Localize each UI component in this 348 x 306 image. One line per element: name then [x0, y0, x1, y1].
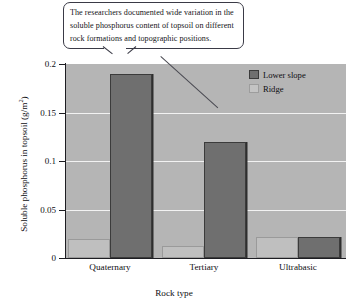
legend-swatch-icon-ridge	[249, 84, 259, 93]
y-tick-0.1	[59, 161, 65, 162]
x-axis-line	[65, 258, 346, 259]
annotation-callout: The researchers documented wide variatio…	[63, 2, 244, 49]
bar-tertiary-ridge	[162, 246, 204, 258]
y-axis-title-exponent: 2	[17, 99, 24, 102]
legend-label-ridge: Ridge	[263, 84, 284, 94]
legend-label-lower-slope: Lower slope	[263, 70, 306, 80]
bar-tertiary-lower-slope	[204, 142, 246, 258]
bar-quaternary-lower-slope	[110, 74, 152, 258]
bar-ultrabasic-ridge	[256, 237, 298, 258]
y-tick-0.2	[59, 64, 65, 65]
y-tick-0.15	[59, 113, 65, 114]
x-tick-label-ultrabasic: Ultrabasic	[258, 262, 338, 272]
y-axis-title-base: Soluble phosphorus in topsoil (g/m	[19, 103, 29, 232]
x-axis-title: Rock type	[0, 288, 348, 298]
gridline-0.15	[66, 113, 346, 114]
legend: Lower slope Ridge	[249, 68, 306, 96]
chart-figure: The researchers documented wide variatio…	[0, 0, 348, 306]
y-axis-title: Soluble phosphorus in topsoil (g/m2)	[17, 64, 29, 264]
y-axis-line	[65, 63, 66, 259]
x-tick-label-quaternary: Quaternary	[70, 262, 150, 272]
legend-item-ridge: Ridge	[249, 82, 306, 95]
y-tick-label-0.15: 0.15	[40, 108, 56, 118]
y-tick-label-0.05: 0.05	[40, 205, 56, 215]
legend-swatch-icon-lower-slope	[249, 70, 259, 79]
y-tick-label-0.1: 0.1	[45, 156, 56, 166]
y-axis-title-tail: )	[19, 96, 29, 99]
bar-ultrabasic-lower-slope	[298, 237, 340, 258]
legend-item-lower-slope: Lower slope	[249, 68, 306, 81]
y-tick-0	[59, 258, 65, 259]
annotation-callout-text: The researchers documented wide variatio…	[70, 6, 242, 46]
bar-quaternary-ridge	[68, 239, 110, 258]
y-tick-0.05	[59, 210, 65, 211]
x-tick-label-tertiary: Tertiary	[164, 262, 244, 272]
y-tick-label-0: 0	[52, 253, 57, 263]
y-tick-label-0.2: 0.2	[45, 59, 56, 69]
